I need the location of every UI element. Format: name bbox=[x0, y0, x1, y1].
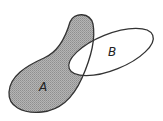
set-b-label: B bbox=[108, 45, 116, 59]
set-a-label: A bbox=[38, 80, 47, 94]
venn-diagram: A B bbox=[0, 0, 163, 121]
